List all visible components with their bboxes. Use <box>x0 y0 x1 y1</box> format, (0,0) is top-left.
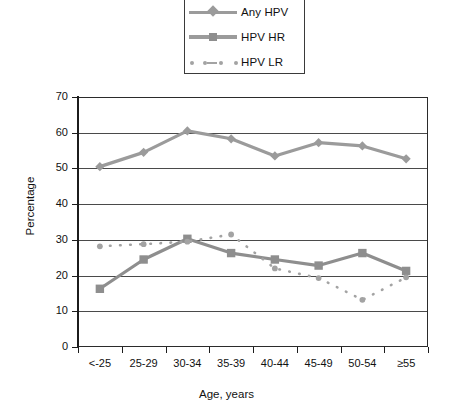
y-axis-tick <box>72 347 77 348</box>
y-axis-tick <box>72 204 77 205</box>
x-axis-tick-label: 35-39 <box>217 357 245 369</box>
x-axis-tick <box>341 347 342 353</box>
y-axis-tick-label: 70 <box>38 90 68 102</box>
chart-legend: Any HPV HPV HR HPV LR <box>184 0 305 74</box>
y-axis-tick <box>72 311 77 312</box>
x-axis-tick-label: 45-49 <box>305 357 333 369</box>
y-axis-tick-label: 50 <box>38 161 68 173</box>
x-axis-tick <box>253 347 254 353</box>
x-axis-tick-label: <-25 <box>89 357 111 369</box>
x-axis-tick-label: ≥55 <box>397 357 415 369</box>
hpv-lr-dotted-icon <box>185 53 241 71</box>
legend-label-hpv-hr: HPV HR <box>241 31 285 43</box>
x-axis-tick-label: 40-44 <box>261 357 289 369</box>
legend-label-any-hpv: Any HPV <box>241 6 288 18</box>
x-axis-tick-label: 50-54 <box>348 357 376 369</box>
x-axis-tick <box>209 347 210 353</box>
x-axis-tick <box>384 347 385 353</box>
gridline <box>79 276 427 277</box>
legend-label-hpv-lr: HPV LR <box>241 56 283 68</box>
x-axis-tick <box>428 347 429 353</box>
y-axis-tick <box>72 240 77 241</box>
y-axis-tick-label: 30 <box>38 233 68 245</box>
y-axis-tick <box>72 97 77 98</box>
x-axis-title: Age, years <box>0 388 453 400</box>
chart-figure: Any HPV HPV HR HPV LR 010203040506070 Pe <box>0 0 453 413</box>
x-axis-tick-label: 25-29 <box>130 357 158 369</box>
x-axis-tick <box>78 347 79 353</box>
x-axis-tick <box>297 347 298 353</box>
gridline <box>79 204 427 205</box>
x-axis-tick-label: 30-34 <box>173 357 201 369</box>
y-axis-tick-label: 20 <box>38 269 68 281</box>
legend-item-hpv-hr: HPV HR <box>185 26 306 48</box>
x-axis-tick <box>122 347 123 353</box>
legend-item-hpv-lr: HPV LR <box>185 51 306 73</box>
y-axis-tick-label: 60 <box>38 126 68 138</box>
y-axis-tick <box>72 276 77 277</box>
gridline <box>79 168 427 169</box>
plot-area <box>78 97 428 347</box>
y-axis-tick <box>72 168 77 169</box>
gridline <box>79 311 427 312</box>
y-axis-tick <box>72 133 77 134</box>
y-axis-tick-label: 40 <box>38 197 68 209</box>
gridline <box>79 133 427 134</box>
y-axis-line <box>77 96 79 348</box>
y-axis-tick-label: 0 <box>38 340 68 352</box>
y-axis-title: Percentage <box>24 158 36 254</box>
any-hpv-line-icon <box>185 3 241 21</box>
gridline <box>79 240 427 241</box>
legend-item-any-hpv: Any HPV <box>185 1 306 23</box>
x-axis-tick <box>166 347 167 353</box>
y-axis-tick-label: 10 <box>38 304 68 316</box>
hpv-hr-line-icon <box>185 28 241 46</box>
y-axis-tick-labels: 010203040506070 <box>36 0 68 413</box>
